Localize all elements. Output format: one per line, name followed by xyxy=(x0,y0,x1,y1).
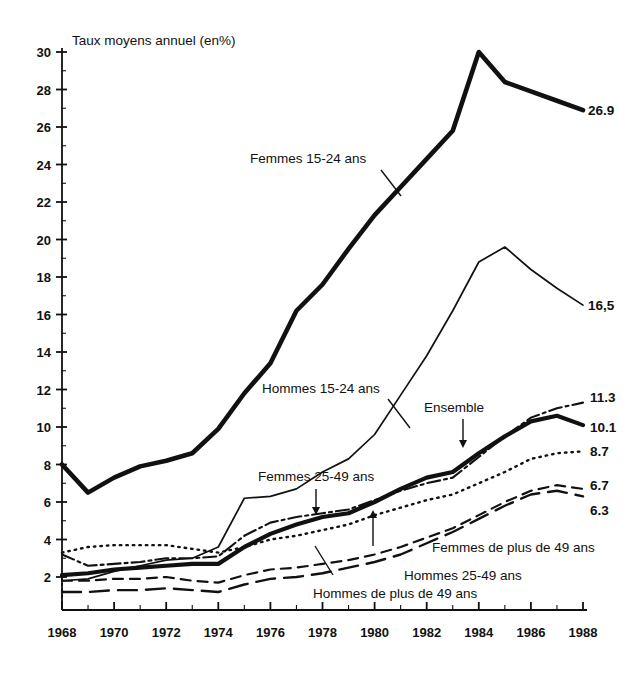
x-tick-label-1972: 1972 xyxy=(152,625,181,640)
end-value-ensemble-upper: 11.3 xyxy=(590,390,616,405)
line-chart-svg: 3028262422201816141210864219681970197219… xyxy=(0,0,642,675)
x-tick-label-1984: 1984 xyxy=(464,625,494,640)
series-line-1 xyxy=(62,247,583,581)
chart-figure: 3028262422201816141210864219681970197219… xyxy=(0,0,642,675)
y-tick-label-8: 8 xyxy=(44,458,51,473)
end-value-ensemble: 10.1 xyxy=(590,420,617,435)
leader-hommes-15-24 xyxy=(388,399,410,428)
y-tick-label-12: 12 xyxy=(37,383,51,398)
series-label-femmes-25-49: Femmes 25-49 ans xyxy=(258,469,375,484)
y-tick-label-2: 2 xyxy=(44,570,51,585)
series-label-hommes-15-24: Hommes 15-24 ans xyxy=(262,381,380,396)
x-tick-label-1982: 1982 xyxy=(412,625,441,640)
x-tick-label-1976: 1976 xyxy=(256,625,285,640)
series-label-hommes-25-49: Hommes 25-49 ans xyxy=(404,568,522,583)
series-line-0 xyxy=(62,52,583,493)
y-tick-label-24: 24 xyxy=(37,158,52,173)
end-value-femmes-25-49: 8.7 xyxy=(590,444,609,459)
leader-arrowhead xyxy=(459,440,467,448)
y-tick-label-14: 14 xyxy=(37,345,52,360)
y-tick-label-22: 22 xyxy=(37,195,51,210)
y-tick-label-20: 20 xyxy=(37,233,51,248)
x-tick-label-1974: 1974 xyxy=(204,625,234,640)
y-tick-label-4: 4 xyxy=(44,533,52,548)
series-label-femmes-15-24: Femmes 15-24 ans xyxy=(250,151,367,166)
axis-title: Taux moyens annuel (en%) xyxy=(72,33,236,48)
y-tick-label-18: 18 xyxy=(37,270,51,285)
x-tick-label-1970: 1970 xyxy=(100,625,129,640)
end-value-femmes-plus-49: 6.7 xyxy=(590,478,609,493)
x-tick-label-1988: 1988 xyxy=(569,625,598,640)
x-tick-label-1980: 1980 xyxy=(360,625,389,640)
series-label-ensemble: Ensemble xyxy=(424,400,484,415)
x-tick-label-1968: 1968 xyxy=(48,625,77,640)
series-label-hommes-plus-49: Hommes de plus de 49 ans xyxy=(313,586,478,601)
y-tick-label-28: 28 xyxy=(37,83,51,98)
leader-hommes-25-49 xyxy=(315,546,333,575)
y-tick-label-6: 6 xyxy=(44,495,51,510)
y-tick-label-10: 10 xyxy=(37,420,51,435)
y-tick-label-26: 26 xyxy=(37,120,51,135)
y-tick-label-30: 30 xyxy=(37,45,51,60)
x-tick-label-1986: 1986 xyxy=(516,625,545,640)
end-value-hommes-25-49: 6.3 xyxy=(590,503,609,518)
y-tick-label-16: 16 xyxy=(37,308,51,323)
end-value-hommes-15-24: 16,5 xyxy=(588,298,615,313)
leader-femmes-15-24 xyxy=(381,170,401,196)
end-value-femmes-15-24: 26.9 xyxy=(588,103,614,118)
x-tick-label-1978: 1978 xyxy=(308,625,337,640)
series-label-femmes-plus-49: Femmes de plus de 49 ans xyxy=(432,540,595,555)
